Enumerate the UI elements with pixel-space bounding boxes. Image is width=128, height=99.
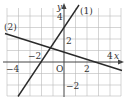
x-tick-neg4: −4 xyxy=(6,64,20,74)
line-1-label: (1) xyxy=(80,6,93,16)
coordinate-plane: (1) (2) y x O 4 2 −2 −4 −2 2 4 xyxy=(0,0,128,99)
origin-label: O xyxy=(56,64,63,74)
y-axis-arrow-icon xyxy=(62,3,67,9)
x-axis-label: x xyxy=(114,51,119,61)
x-tick-neg2: −2 xyxy=(28,51,41,61)
y-tick-4: 4 xyxy=(57,12,63,22)
y-tick-neg2: −2 xyxy=(66,81,79,91)
x-tick-4: 4 xyxy=(107,51,113,61)
y-tick-2: 2 xyxy=(66,36,72,46)
y-axis-label: y xyxy=(56,2,63,12)
line-2-label: (2) xyxy=(4,22,17,32)
x-tick-2: 2 xyxy=(84,64,90,74)
